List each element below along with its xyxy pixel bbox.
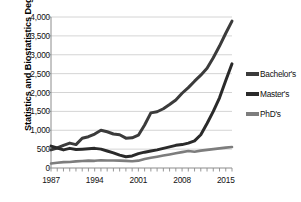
legend-item-masters[interactable]: Master's: [246, 87, 301, 101]
chart-legend: Bachelor'sMaster'sPhD's: [246, 67, 301, 127]
legend-swatch-icon: [246, 92, 259, 95]
legend-swatch-icon: [246, 72, 259, 75]
legend-item-phds[interactable]: PhD's: [246, 107, 301, 121]
legend-label: Master's: [260, 89, 289, 99]
degrees-line-chart: Statistics and Biostatistics Degrees 050…: [0, 0, 301, 202]
legend-label: Bachelor's: [260, 69, 296, 79]
legend-label: PhD's: [260, 109, 281, 119]
legend-item-bachelors[interactable]: Bachelor's: [246, 67, 301, 81]
legend-swatch-icon: [246, 112, 259, 115]
